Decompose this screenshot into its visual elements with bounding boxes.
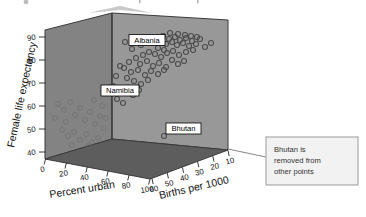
z-tick-mark — [182, 167, 183, 173]
x-tick-label: 20 — [59, 168, 70, 178]
point-label-bhutan: Bhutan — [166, 123, 201, 134]
z-tick-mark — [198, 162, 199, 168]
cropped-title-remnant — [24, 0, 199, 13]
point-label-bhutan-text: Bhutan — [171, 124, 195, 133]
annotation-line-1: Bhutan is — [274, 145, 306, 154]
y-tick-label: 50 — [26, 125, 37, 135]
annotation-line-2: removed from — [274, 156, 321, 165]
z-tick-label: 30 — [194, 167, 205, 178]
z-tick-mark — [228, 151, 229, 157]
point-label-namibia-text: Namibia — [106, 86, 135, 95]
point-label-namibia: Namibia — [101, 85, 139, 96]
point-label-albania-text: Albania — [134, 36, 160, 45]
z-tick-mark — [213, 156, 214, 162]
z-tick-label: 20 — [209, 161, 220, 172]
y-tick-label: 40 — [26, 148, 37, 158]
x-tick-label: 80 — [121, 180, 132, 190]
z-tick-mark — [167, 173, 168, 179]
y-axis: 908070605040 Female life expectancy — [4, 33, 45, 158]
z-tick-label: 10 — [225, 156, 236, 167]
figure-3d-scatterplot: 908070605040 Female life expectancy 0204… — [0, 0, 366, 217]
point-label-albania: Albania — [129, 35, 165, 46]
annotation-line-3: other points — [274, 167, 314, 176]
x-tick-label: 0 — [40, 165, 46, 175]
annotation-leader-line — [228, 149, 266, 157]
x-tick-mark — [44, 159, 45, 165]
y-tick-label: 60 — [26, 102, 37, 112]
scatterplot-canvas: 908070605040 Female life expectancy 0204… — [0, 0, 366, 217]
